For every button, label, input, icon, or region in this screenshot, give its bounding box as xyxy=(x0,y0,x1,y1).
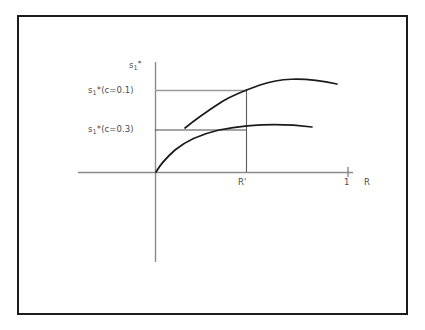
s1-star-c01-label: s1*(c=0.1) xyxy=(88,85,134,95)
y-axis-label: s1* xyxy=(129,60,142,70)
plot-area xyxy=(0,0,425,330)
x-axis-tick-label-r-prime: R' xyxy=(238,177,246,187)
x-axis-label: R xyxy=(364,177,370,187)
curve-s1-star-c01 xyxy=(185,79,337,128)
s1-star-c03-label: s1*(c=0.3) xyxy=(88,124,134,134)
x-axis-tick-label-one: 1 xyxy=(344,177,350,187)
curve-s1-star-c03 xyxy=(156,124,312,172)
figure-root: s1* s1*(c=0.1) s1*(c=0.3) R' 1 R xyxy=(0,0,425,330)
